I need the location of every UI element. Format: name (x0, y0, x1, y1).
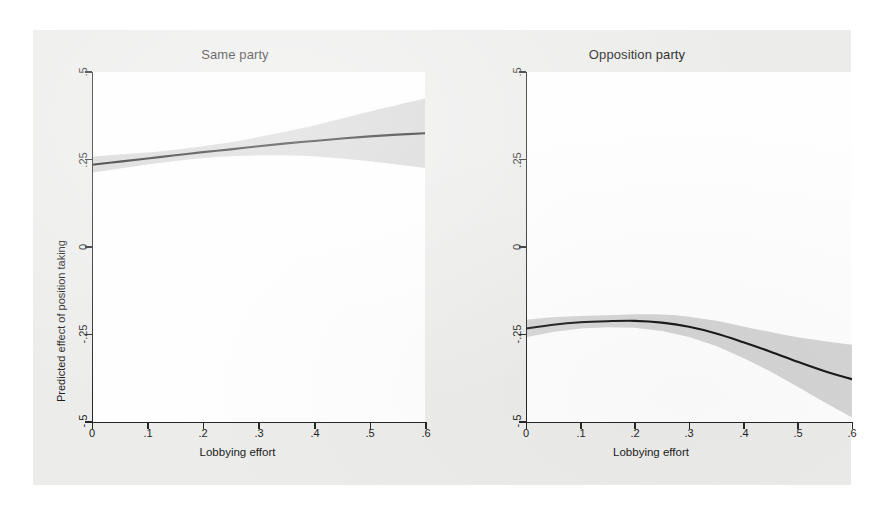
x-tick-label: .6 (840, 427, 864, 439)
x-tick-label: .1 (569, 427, 593, 439)
x-tick-label: .5 (358, 427, 382, 439)
x-tick-label: .5 (786, 427, 810, 439)
x-tick-label: 0 (80, 427, 104, 439)
x-tick-label: .2 (623, 427, 647, 439)
x-axis-title: Lobbying effort (33, 446, 442, 458)
subplot-opposition-party: Opposition party .5 .25 0 -.25 -.5 (442, 30, 851, 485)
x-tick-label: .3 (677, 427, 701, 439)
axes-same-party (77, 60, 447, 460)
figure-panel: Same party Predicted effect of position … (33, 30, 851, 485)
x-tick-label: 0 (514, 427, 538, 439)
y-axis-title: Predicted effect of position taking (55, 240, 67, 402)
subplot-same-party: Same party Predicted effect of position … (33, 30, 442, 485)
x-axis-title: Lobbying effort (466, 446, 836, 458)
x-tick-label: .2 (191, 427, 215, 439)
x-tick-label: .1 (136, 427, 160, 439)
x-tick-label: .6 (414, 427, 438, 439)
x-tick-label: .4 (732, 427, 756, 439)
x-tick-label: .4 (303, 427, 327, 439)
axes-opposition-party (511, 60, 871, 460)
chart-screenshot: Same party Predicted effect of position … (0, 0, 882, 514)
x-tick-label: .3 (247, 427, 271, 439)
